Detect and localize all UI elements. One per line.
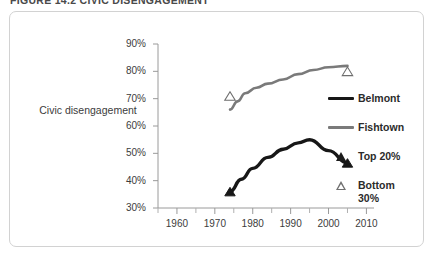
chart-legend: BelmontFishtownTop 20%Bottom 30% <box>326 92 430 219</box>
legend-line-swatch <box>328 126 354 129</box>
legend-item-belmont: Belmont <box>326 92 430 106</box>
y-axis-ticks <box>153 44 158 208</box>
y-tick-label: 90% <box>112 38 146 49</box>
legend-item-top-20: Top 20% <box>326 150 430 164</box>
y-tick-label: 40% <box>112 175 146 186</box>
x-tick-label: 2000 <box>312 218 346 229</box>
marker-bottom30-icon <box>342 67 352 75</box>
triangle-solid-icon <box>336 152 346 161</box>
legend-label: Bottom 30% <box>356 179 404 204</box>
y-tick-label: 50% <box>112 147 146 158</box>
chart-frame: Civic disengagement 90%80%70%60%50%40%30… <box>9 11 424 247</box>
x-tick-label: 1970 <box>198 218 232 229</box>
triangle-open-icon <box>336 181 346 190</box>
y-tick-label: 30% <box>112 202 146 213</box>
y-tick-label: 80% <box>112 65 146 76</box>
x-tick-label: 2010 <box>349 218 383 229</box>
legend-line-icon <box>326 92 356 105</box>
legend-line-icon <box>326 121 356 134</box>
legend-label: Belmont <box>356 92 400 105</box>
x-tick-label: 1990 <box>274 218 308 229</box>
legend-item-bottom-30: Bottom 30% <box>326 179 430 204</box>
legend-item-fishtown: Fishtown <box>326 121 430 135</box>
legend-triangle-solid-icon <box>326 150 356 163</box>
legend-label: Top 20% <box>356 150 400 163</box>
x-tick-label: 1960 <box>160 218 194 229</box>
y-axis-label: Civic disengagement <box>36 104 140 117</box>
figure-caption: FIGURE 14.2 CIVIC DISENGAGEMENT <box>10 0 310 8</box>
x-tick-label: 1980 <box>236 218 270 229</box>
y-tick-label: 70% <box>112 93 146 104</box>
legend-line-swatch <box>328 97 354 100</box>
legend-label: Fishtown <box>356 121 404 134</box>
legend-triangle-open-icon <box>326 179 356 192</box>
y-tick-label: 60% <box>112 120 146 131</box>
marker-bottom30-icon <box>225 92 235 101</box>
